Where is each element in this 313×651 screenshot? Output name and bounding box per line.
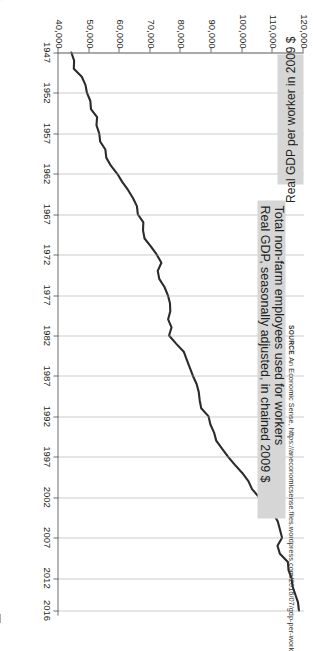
rotated-figure-wrapper: Real GDP per worker in 2009 $ Total non-…: [0, 0, 313, 651]
chart-figure: Real GDP per worker in 2009 $ Total non-…: [0, 0, 313, 651]
source-note: SOURCE An Economic Sense, https://anecon…: [287, 325, 296, 651]
y-axis-tick-label: 80,000: [176, 2, 187, 48]
y-axis-title-label: Real GDP per worker in 2009 $: [283, 36, 297, 203]
x-axis-tick: [53, 497, 58, 498]
x-axis-tick: [53, 214, 58, 215]
gridline: [58, 133, 303, 134]
y-axis-tick-label: 70,000: [145, 2, 156, 48]
x-axis-tick-label: 1957: [41, 116, 52, 150]
gridline: [58, 92, 303, 93]
y-axis-tick-label: 90,000: [206, 2, 217, 48]
x-axis-tick: [53, 578, 58, 579]
gridline: [58, 578, 303, 579]
x-axis-tick: [53, 295, 58, 296]
y-axis-tick-label: 120,000: [298, 2, 309, 48]
x-axis-tick-label: 1962: [41, 156, 52, 190]
x-axis-tick-label: 1967: [41, 197, 52, 231]
annotation-line-2: Real GDP, seasonally adjusted, in chaine…: [257, 205, 271, 535]
x-axis-tick-label: 2002: [41, 480, 52, 514]
x-axis-tick-label: 1997: [41, 439, 52, 473]
x-axis-tick: [53, 173, 58, 174]
x-axis-tick: [53, 416, 58, 417]
annotation-text: Total non-farm employees used for worker…: [257, 205, 285, 535]
y-axis-tick-label: 110,000: [267, 2, 278, 48]
y-axis-tick-label: 40,000: [53, 2, 64, 48]
x-axis-tick-label: 1952: [41, 75, 52, 109]
gridline: [58, 610, 303, 611]
gridline: [58, 537, 303, 538]
x-axis-tick: [53, 610, 58, 611]
x-axis-tick: [53, 375, 58, 376]
x-axis-tick: [53, 335, 58, 336]
source-text: An Economic Sense, https://aneconomicsen…: [287, 357, 296, 651]
x-axis-tick-label: 2007: [41, 520, 52, 554]
x-axis-tick-label: 1972: [41, 237, 52, 271]
y-axis-title-band: Real GDP per worker in 2009 $: [277, 54, 303, 184]
x-axis-tick: [53, 456, 58, 457]
x-axis-tick: [53, 92, 58, 93]
x-axis-tick-label: 1987: [41, 358, 52, 392]
x-axis-tick: [53, 537, 58, 538]
y-axis-tick-label: 50,000: [84, 2, 95, 48]
source-note-wrapper: SOURCE An Economic Sense, https://anecon…: [282, 325, 296, 651]
x-axis-tick: [53, 254, 58, 255]
x-axis-line: [57, 52, 58, 615]
gridline: [58, 173, 303, 174]
y-axis-tick-label: 100,000: [237, 2, 248, 48]
x-axis-tick-label: 2016: [41, 593, 52, 627]
x-axis-tick-label: 1982: [41, 318, 52, 352]
x-axis-tick-label: 2012: [41, 561, 52, 595]
x-axis-tick-label: 1992: [41, 399, 52, 433]
x-axis-tick-label: 1947: [41, 35, 52, 69]
y-axis-tick-label: 60,000: [114, 2, 125, 48]
x-axis-tick: [53, 133, 58, 134]
x-axis-tick-label: 1977: [41, 278, 52, 312]
source-label: SOURCE: [288, 325, 295, 355]
